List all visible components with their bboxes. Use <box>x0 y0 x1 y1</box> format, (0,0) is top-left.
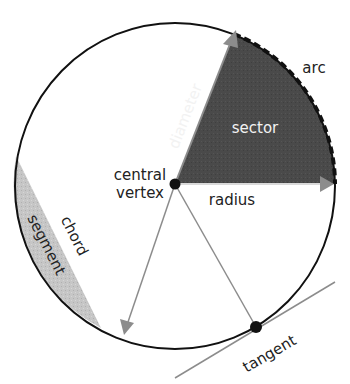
sector-label: sector <box>232 119 279 137</box>
central-vertex-dot <box>170 179 181 190</box>
tangent-label: tangent <box>240 331 300 376</box>
radius-lower-left-line <box>128 184 175 322</box>
circle-diagram: diameter sector arc central vertex radiu… <box>0 0 350 384</box>
tangent-point-dot <box>250 321 262 333</box>
central-vertex-label-line2: vertex <box>116 184 164 202</box>
central-vertex-label-line1: central <box>114 166 166 184</box>
radius-label: radius <box>209 191 256 209</box>
arc-label: arc <box>302 59 325 77</box>
lower-left-arrowhead <box>120 319 134 335</box>
sector-region <box>175 34 335 184</box>
